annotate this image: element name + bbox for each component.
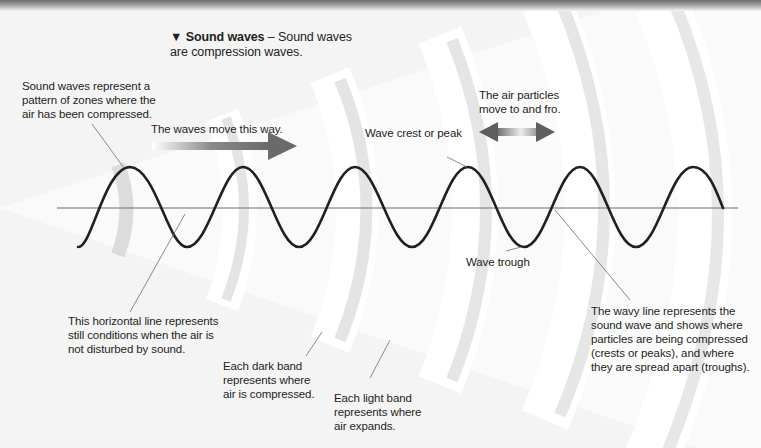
label-waves-move: The waves move this way. [151, 122, 283, 136]
leader-light-band [370, 340, 390, 378]
top-border [0, 0, 761, 11]
sound-wave-diagram [0, 0, 761, 448]
leader-zones [92, 124, 124, 168]
caption-text-line2: are compression waves. [170, 45, 303, 59]
sound-fan [0, 0, 761, 448]
label-compressed-zones: Sound waves represent a pattern of zones… [22, 79, 156, 121]
label-light-band: Each light band represents where air exp… [334, 391, 421, 433]
caption-text-line1: Sound waves [278, 30, 352, 44]
figure-caption: ▼ Sound waves – Sound waves are compress… [170, 30, 352, 60]
caption-title: Sound waves [186, 30, 265, 44]
label-dark-band: Each dark band represents where air is c… [223, 359, 315, 401]
label-wave-crest: Wave crest or peak [365, 126, 462, 140]
caption-marker-icon: ▼ [170, 30, 182, 44]
label-wavy-line: The wavy line represents the sound wave … [591, 304, 750, 374]
label-wave-trough: Wave trough [466, 255, 530, 269]
label-air-particles: The air particles move to and fro. [479, 88, 561, 116]
label-horizontal-line: This horizontal line represents still co… [68, 314, 218, 356]
